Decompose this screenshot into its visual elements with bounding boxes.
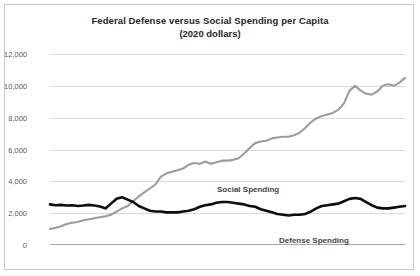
chart-title: Federal Defense versus Social Spending p… [5,14,415,27]
chart-subtitle: (2020 dollars) [5,27,415,40]
series-label-social-spending: Social Spending [217,185,279,194]
series-label-defense-spending: Defense Spending [279,236,349,245]
y-tick-label: 10,000 [0,82,27,91]
y-tick-label: 6,000 [0,146,27,155]
series-lines [50,54,405,245]
y-tick-label: 4,000 [0,177,27,186]
chart-container: Federal Defense versus Social Spending p… [4,4,414,270]
y-tick-label: 2,000 [0,209,27,218]
y-tick-label: 0 [0,241,27,250]
chart-screenshot: Federal Defense versus Social Spending p… [0,0,420,276]
series-line-defense-spending [50,197,405,215]
plot-area: 12,00010,0008,0006,0004,0002,0000 195519… [50,54,405,245]
y-tick-label: 8,000 [0,114,27,123]
y-tick-label: 12,000 [0,50,27,59]
